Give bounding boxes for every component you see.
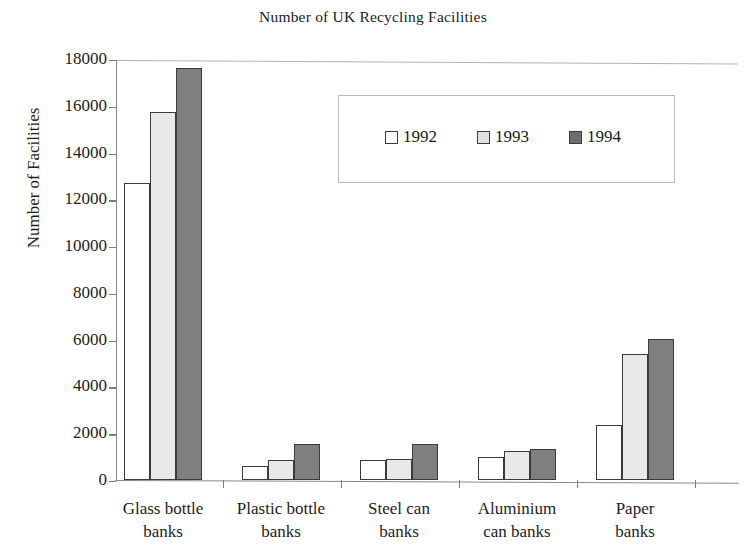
y-axis-line xyxy=(116,60,117,481)
bar-1994-1 xyxy=(294,444,320,480)
bar-1993-1 xyxy=(268,460,294,480)
legend-swatch-1992 xyxy=(385,131,398,144)
bar-1992-1 xyxy=(242,466,268,480)
x-tick-mark xyxy=(577,480,578,488)
y-axis-title: Number of Facilities xyxy=(24,58,44,298)
bar-1993-3 xyxy=(504,451,530,480)
bar-1994-0 xyxy=(176,68,202,480)
y-tick-mark xyxy=(109,341,116,342)
x-tick-mark xyxy=(341,480,342,488)
y-tick-label: 18000 xyxy=(27,49,107,69)
y-tick-label: 14000 xyxy=(27,143,107,163)
legend-item-1994: 1994 xyxy=(569,127,621,147)
bar-1994-4 xyxy=(648,339,674,481)
bar-1994-3 xyxy=(530,449,556,480)
y-tick-mark xyxy=(109,294,116,295)
y-tick-label: 16000 xyxy=(27,96,107,116)
category-label-line: Paper xyxy=(565,497,705,520)
y-tick-label: 0 xyxy=(27,470,107,490)
bar-group xyxy=(242,60,320,480)
y-tick-label: 6000 xyxy=(27,330,107,350)
bar-1992-0 xyxy=(124,183,150,480)
y-tick-label: 8000 xyxy=(27,283,107,303)
y-tick-label: 2000 xyxy=(27,423,107,443)
bar-1992-2 xyxy=(360,460,386,480)
category-label-line: banks xyxy=(565,520,705,543)
y-tick-label: 12000 xyxy=(27,189,107,209)
x-tick-mark xyxy=(695,480,696,488)
legend-item-1993: 1993 xyxy=(477,127,529,147)
y-tick-mark xyxy=(109,481,116,482)
y-tick-label: 10000 xyxy=(27,236,107,256)
legend-label: 1993 xyxy=(495,127,529,147)
legend-label: 1992 xyxy=(403,127,437,147)
bar-1992-4 xyxy=(596,425,622,480)
y-tick-mark xyxy=(109,387,116,388)
y-tick-mark xyxy=(109,200,116,201)
legend-swatch-1993 xyxy=(477,131,490,144)
bar-group xyxy=(124,60,202,480)
y-tick-mark xyxy=(109,154,116,155)
y-tick-mark xyxy=(109,60,116,61)
chart-title: Number of UK Recycling Facilities xyxy=(0,8,746,26)
legend-label: 1994 xyxy=(587,127,621,147)
x-tick-mark xyxy=(223,480,224,488)
bar-1993-2 xyxy=(386,459,412,480)
y-tick-label: 4000 xyxy=(27,376,107,396)
x-tick-mark xyxy=(459,480,460,488)
y-tick-mark xyxy=(109,107,116,108)
bar-1993-4 xyxy=(622,354,648,480)
x-axis-line xyxy=(115,480,739,484)
chart-legend: 199219931994 xyxy=(338,95,675,183)
bar-chart: Number of UK Recycling Facilities Number… xyxy=(0,0,746,546)
bar-1993-0 xyxy=(150,112,176,480)
bar-1992-3 xyxy=(478,457,504,480)
y-tick-mark xyxy=(109,434,116,435)
y-tick-mark xyxy=(109,247,116,248)
category-label: Paperbanks xyxy=(565,497,705,543)
legend-item-1992: 1992 xyxy=(385,127,437,147)
bar-1994-2 xyxy=(412,444,438,480)
legend-swatch-1994 xyxy=(569,131,582,144)
